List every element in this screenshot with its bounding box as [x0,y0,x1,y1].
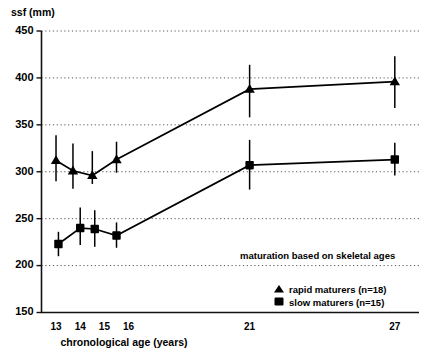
x-tick-label-13: 13 [50,321,62,332]
x-tick-label-27: 27 [389,321,401,332]
series-slow-maturers [54,140,399,256]
y-tick-label-450: 450 [15,24,33,36]
x-tick-label-16: 16 [123,321,135,332]
x-axis-ticks: 131415162127 [50,321,400,332]
y-axis-title: ssf (mm) [11,6,55,18]
ssf-vs-age-line-chart: ssf (mm) 450400350300250200150 131415162… [0,0,427,353]
x-tick-label-15: 15 [99,321,111,332]
chart-legend: rapid maturers (n=18) slow maturers (n=1… [274,284,386,308]
square-marker-icon [76,224,84,232]
triangle-marker-icon [68,166,78,175]
legend-item-slow-maturers: slow maturers (n=15) [275,297,385,308]
square-marker-icon [54,240,62,248]
square-marker-icon [245,161,253,169]
y-tick-label-250: 250 [15,212,33,224]
triangle-marker-icon [111,154,121,163]
legend-item-rapid-maturers: rapid maturers (n=18) [274,284,386,295]
square-marker-icon [391,155,399,163]
square-marker-icon [112,231,120,239]
x-tick-label-14: 14 [75,321,87,332]
square-marker-icon [91,225,99,233]
y-axis-ticks: 450400350300250200150 [15,24,41,318]
y-tick-label-400: 400 [15,71,33,83]
y-tick-label-200: 200 [15,258,33,270]
triangle-marker-icon [51,155,61,164]
series-line-1 [58,160,394,244]
triangle-marker-icon [274,285,284,293]
series-rapid-maturers [51,56,400,188]
y-tick-label-350: 350 [15,118,33,130]
x-axis-title: chronological age (years) [60,336,187,348]
square-marker-icon [275,298,284,306]
y-tick-label-150: 150 [15,305,33,317]
x-tick-label-21: 21 [244,321,256,332]
legend-label-slow: slow maturers (n=15) [289,297,384,308]
legend-label-rapid: rapid maturers (n=18) [289,284,386,295]
chart-container: ssf (mm) 450400350300250200150 131415162… [0,0,427,353]
maturation-note: maturation based on skeletal ages [240,250,395,261]
y-tick-label-300: 300 [15,165,33,177]
